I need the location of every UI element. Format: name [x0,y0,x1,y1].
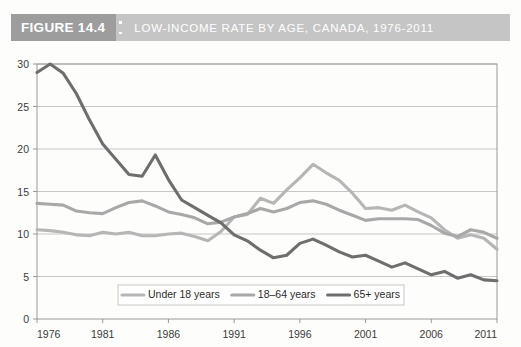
legend-label: Under 18 years [148,288,220,300]
chart-area: 051015202530 197619811986199119962001200… [0,46,521,347]
x-tick-label: 1981 [91,328,115,340]
y-tick-label: 5 [23,271,29,283]
gridlines [37,64,497,277]
y-tick-label: 20 [17,143,29,155]
y-tick-label: 15 [17,186,29,198]
x-tick-label: 1996 [288,328,312,340]
figure-title: LOW-INCOME RATE BY AGE, CANADA, 1976-201… [125,14,510,41]
figure-container: FIGURE 14.4 LOW-INCOME RATE BY AGE, CANA… [0,0,521,347]
legend-label: 65+ years [354,288,400,300]
line-chart: 051015202530 197619811986199119962001200… [0,46,521,347]
x-axis-ticks: 19761981198619911996200120062011 [37,319,497,340]
x-tick-label: 1991 [222,328,246,340]
legend-label: 18–64 years [258,288,316,300]
y-tick-label: 0 [23,313,29,325]
x-tick-label: 1986 [157,328,181,340]
data-series [37,64,497,281]
series-line [37,164,497,249]
figure-banner: FIGURE 14.4 LOW-INCOME RATE BY AGE, CANA… [11,14,510,41]
x-tick-label: 2006 [420,328,444,340]
y-axis-ticks: 051015202530 [17,58,37,325]
y-tick-label: 10 [17,228,29,240]
figure-number-label: FIGURE 14.4 [11,14,116,41]
x-tick-label: 2011 [474,328,497,340]
chart-legend: Under 18 years18–64 years65+ years [118,285,404,305]
y-tick-label: 30 [17,58,29,70]
series-line [37,64,497,281]
x-tick-label: 2001 [354,328,378,340]
x-tick-label: 1976 [37,328,61,340]
banner-divider-dots-icon [116,14,125,41]
y-tick-label: 25 [17,101,29,113]
